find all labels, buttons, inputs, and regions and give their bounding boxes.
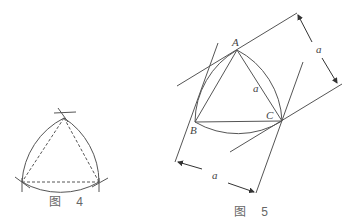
label-c-vertex: C	[266, 109, 274, 121]
reuleaux-arcs	[22, 118, 99, 192]
diagram-canvas: A B C a a a	[0, 0, 360, 223]
label-b-vertex: B	[190, 124, 197, 136]
figure-4	[15, 108, 108, 192]
construction-ticks	[15, 108, 108, 192]
dimension-arrows	[178, 15, 337, 192]
label-width-top: a	[316, 43, 322, 55]
figure-5-caption: 图 5	[234, 202, 274, 219]
figure-5	[175, 13, 342, 193]
figure-4-caption: 图 4	[49, 192, 89, 209]
label-width-bottom: a	[212, 169, 218, 181]
supporting-lines	[175, 13, 342, 193]
label-side-a: a	[253, 82, 259, 94]
label-a-vertex: A	[231, 36, 239, 48]
dashed-triangle	[22, 118, 99, 182]
